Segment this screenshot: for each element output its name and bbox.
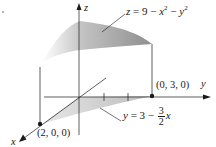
stray-dot bbox=[2, 11, 4, 13]
surface-eq-equals: = bbox=[133, 5, 139, 17]
x-axis-label: x bbox=[11, 137, 16, 147]
y-axis-label: y bbox=[201, 79, 206, 90]
line-eq-fraction: 32 bbox=[158, 106, 165, 127]
line-leader-line bbox=[100, 108, 121, 121]
line-eq-var: x bbox=[166, 109, 171, 121]
point-2-0-0 bbox=[38, 122, 42, 126]
line-eq-rhs: = 3 − bbox=[128, 109, 157, 121]
point-2-0-0-label: (2, 0, 0) bbox=[37, 128, 70, 139]
surface-eq-lhs: z bbox=[126, 5, 130, 17]
point-0-3-0-label: (0, 3, 0) bbox=[156, 80, 189, 91]
surface-eq-minus: − bbox=[168, 5, 180, 17]
surface-equation-label: z = 9 − x2 − y2 bbox=[126, 6, 188, 17]
line-equation-label: y = 3 − 32x bbox=[123, 106, 171, 127]
z-axis-label: z bbox=[84, 3, 88, 14]
surface-eq-y-exp: 2 bbox=[184, 4, 188, 12]
y-axis-arrow-icon bbox=[203, 95, 211, 100]
z-axis-arrow-icon bbox=[77, 3, 82, 10]
surface-diagram bbox=[0, 0, 216, 147]
x-axis-arrow-icon bbox=[19, 135, 27, 143]
point-0-3-0 bbox=[150, 94, 154, 98]
fraction-denominator: 2 bbox=[158, 117, 165, 127]
surface-eq-const: 9 − bbox=[142, 5, 159, 17]
surface-patch bbox=[42, 21, 152, 63]
